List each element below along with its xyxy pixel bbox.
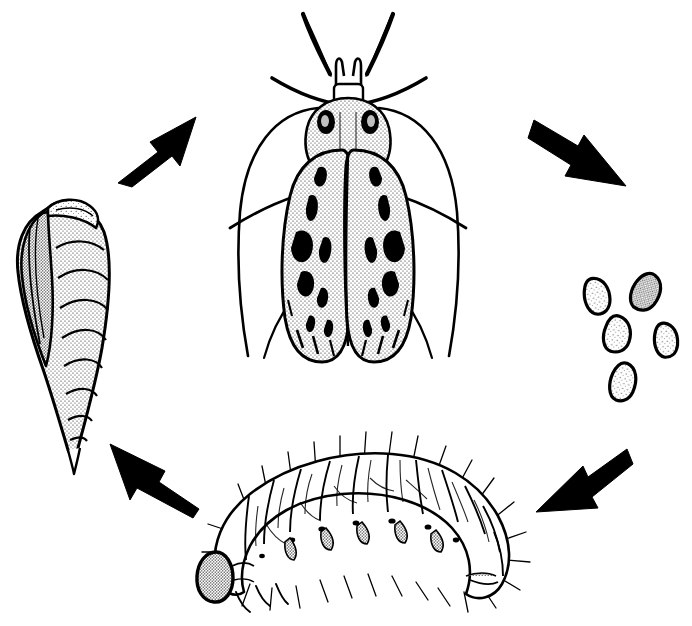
eye-right-highlight	[367, 115, 375, 127]
larva-head	[197, 552, 233, 602]
eye-left-highlight	[321, 115, 329, 127]
life-cycle-figure	[0, 0, 692, 626]
life-cycle-illustration	[0, 0, 692, 626]
